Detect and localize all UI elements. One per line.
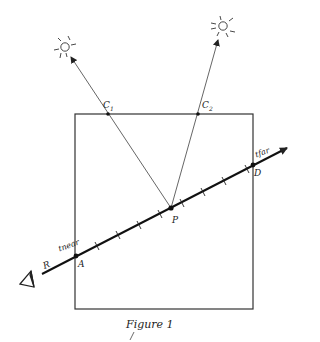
caption-mark — [130, 332, 134, 340]
shadow-ray-2 — [171, 40, 218, 208]
primary-ray — [42, 148, 287, 274]
point-d — [251, 163, 256, 168]
label-a: A — [78, 259, 85, 269]
label-d: D — [254, 168, 261, 178]
point-c2 — [196, 112, 200, 116]
label-c2: C2 — [202, 100, 213, 112]
label-p: P — [172, 215, 178, 225]
point-a — [74, 254, 79, 259]
label-c1: C1 — [103, 100, 114, 112]
eye-icon — [20, 271, 34, 287]
point-p — [168, 205, 173, 210]
light-source-2-icon — [211, 16, 235, 37]
point-c1 — [106, 112, 110, 116]
shadow-ray-1 — [71, 57, 171, 208]
light-source-1-icon — [54, 36, 76, 58]
figure-caption: Figure 1 — [126, 318, 174, 331]
